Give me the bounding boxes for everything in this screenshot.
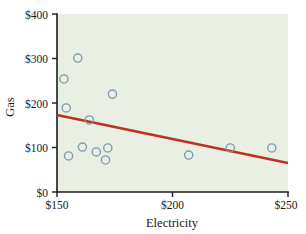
x-axis-label-150: $150 [46, 199, 69, 211]
y-axis-label-300: $300 [25, 53, 48, 65]
chart-canvas: $400 $300 $200 $100 $0 Gas $150 $200 $25… [0, 0, 306, 234]
x-axis-title: Electricity [146, 216, 199, 230]
y-axis-label-200: $200 [25, 98, 48, 110]
scatter-chart: $400 $300 $200 $100 $0 Gas $150 $200 $25… [0, 0, 306, 234]
y-axis-title: Gas [3, 97, 17, 117]
x-axis-label-200: $200 [161, 199, 184, 211]
plot-area-background [57, 14, 288, 192]
y-axis-label-100: $100 [25, 142, 48, 154]
x-axis-label-250: $250 [275, 199, 298, 211]
y-axis: $400 $300 $200 $100 $0 Gas [3, 9, 57, 199]
x-axis: $150 $200 $250 Electricity [46, 192, 298, 230]
y-axis-label-0: $0 [37, 187, 49, 199]
y-axis-label-400: $400 [25, 9, 48, 21]
